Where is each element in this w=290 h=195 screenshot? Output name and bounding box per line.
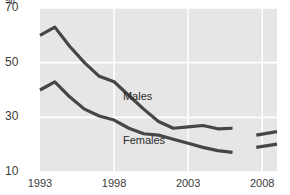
y-tick-label: 10	[5, 164, 18, 178]
x-tick-label: 1998	[94, 177, 134, 189]
series-label-females: Females	[123, 134, 165, 146]
line-chart: % 10305070 1993199820032008 MalesFemales	[0, 0, 290, 195]
y-tick-label: 30	[5, 109, 18, 123]
plot-background	[40, 8, 277, 172]
x-tick-label: 2003	[168, 177, 208, 189]
x-tick-label: 2008	[242, 177, 282, 189]
x-tick-label: 1993	[20, 177, 60, 189]
y-tick-label: 70	[5, 0, 18, 14]
series-label-males: Males	[123, 90, 152, 102]
y-tick-label: 50	[5, 55, 18, 69]
